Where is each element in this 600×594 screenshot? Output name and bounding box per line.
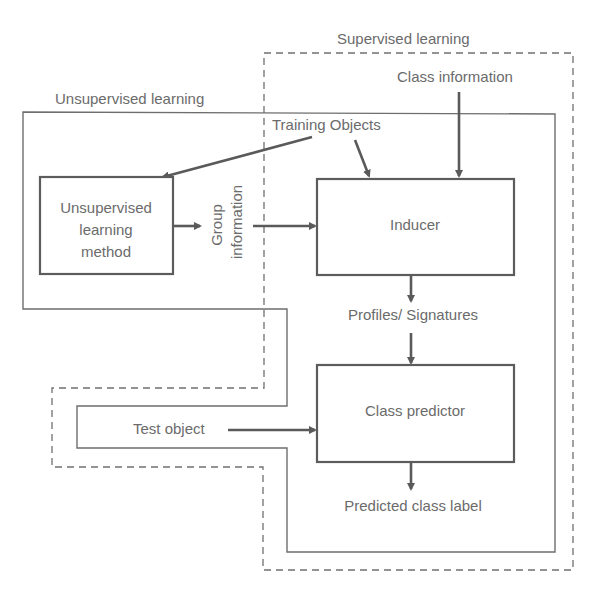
supervised-region-label: Supervised learning (337, 30, 470, 47)
profiles-signatures-label: Profiles/ Signatures (348, 306, 478, 323)
unsupervised-method-line3: method (81, 243, 131, 260)
test-object-label: Test object (133, 420, 206, 437)
unsupervised-method-line1: Unsupervised (60, 199, 152, 216)
group-information-line1: Group (208, 204, 225, 246)
unsupervised-method-line2: learning (79, 221, 132, 238)
training-to-inducer-arrow (355, 140, 369, 176)
group-information-line2: information (228, 185, 245, 259)
inducer-label: Inducer (390, 216, 440, 233)
class-predictor-label: Class predictor (365, 402, 465, 419)
class-information-label: Class information (397, 68, 513, 85)
training-to-unsupervised-arrow (163, 137, 312, 177)
unsupervised-region-label: Unsupervised learning (55, 90, 204, 107)
predicted-class-label: Predicted class label (344, 497, 482, 514)
learning-diagram: Supervised learning Unsupervised learnin… (0, 0, 600, 594)
training-objects-label: Training Objects (272, 116, 381, 133)
